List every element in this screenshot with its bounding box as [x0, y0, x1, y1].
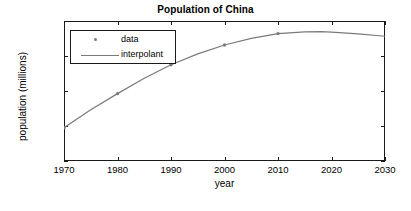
- legend-sample-interpolant: [77, 47, 117, 63]
- x-tick-mark: [385, 157, 386, 161]
- legend-sample-data: [77, 32, 117, 48]
- x-tick-mark: [385, 21, 386, 25]
- x-tick-mark: [171, 21, 172, 25]
- x-tick-mark: [225, 157, 226, 161]
- y-tick-mark: [64, 21, 68, 22]
- legend-label-data: data: [121, 34, 139, 44]
- x-tick-label: 2000: [214, 164, 235, 175]
- y-tick-mark: [381, 56, 385, 57]
- x-tick-mark: [332, 21, 333, 25]
- y-axis-label: population (millions): [17, 27, 28, 167]
- x-tick-label: 2010: [267, 164, 288, 175]
- x-tick-mark: [278, 157, 279, 161]
- y-tick-mark: [381, 126, 385, 127]
- y-tick-mark: [64, 56, 68, 57]
- y-tick-mark: [381, 161, 385, 162]
- legend-entry-data: data: [71, 32, 177, 48]
- legend-entry-interpolant: interpolant: [71, 47, 177, 63]
- y-tick-mark: [64, 161, 68, 162]
- line-sample-icon: [81, 55, 119, 56]
- legend-label-interpolant: interpolant: [121, 49, 163, 59]
- x-tick-mark: [332, 157, 333, 161]
- chart-legend: data interpolant: [70, 30, 176, 64]
- x-tick-label: 2020: [321, 164, 342, 175]
- x-tick-label: 1990: [160, 164, 181, 175]
- y-tick-mark: [381, 91, 385, 92]
- x-tick-label: 1970: [53, 164, 74, 175]
- y-tick-mark: [64, 91, 68, 92]
- x-tick-mark: [118, 21, 119, 25]
- y-tick-mark: [381, 21, 385, 22]
- chart-screenshot: Population of China 19701980199020002010…: [0, 0, 411, 211]
- x-axis-label: year: [64, 178, 385, 189]
- x-tick-label: 2030: [374, 164, 395, 175]
- dot-marker-icon: [94, 38, 97, 41]
- x-tick-mark: [225, 21, 226, 25]
- y-tick-mark: [64, 126, 68, 127]
- x-tick-label: 1980: [107, 164, 128, 175]
- chart-title: Population of China: [0, 4, 411, 15]
- x-tick-mark: [118, 157, 119, 161]
- x-tick-mark: [278, 21, 279, 25]
- x-tick-mark: [171, 157, 172, 161]
